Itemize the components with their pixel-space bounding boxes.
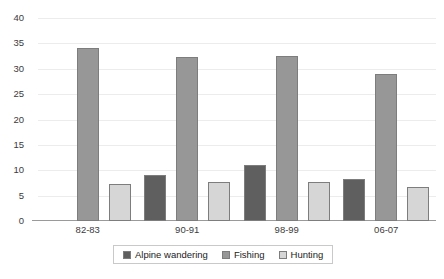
y-axis-tick-label: 30 bbox=[0, 64, 24, 74]
legend-item[interactable]: Fishing bbox=[222, 249, 265, 260]
bar-slot bbox=[109, 18, 131, 221]
bar bbox=[144, 175, 166, 221]
bar-slot bbox=[77, 18, 99, 221]
bar bbox=[176, 57, 198, 221]
bar-groups bbox=[38, 18, 436, 221]
legend-swatch-icon bbox=[222, 251, 230, 259]
bar-slot bbox=[276, 18, 298, 221]
legend-swatch-icon bbox=[279, 251, 287, 259]
bar bbox=[208, 182, 230, 221]
bar-slot bbox=[45, 18, 67, 221]
y-axis-tick-label: 20 bbox=[0, 115, 24, 125]
bar-slot bbox=[375, 18, 397, 221]
bar bbox=[276, 56, 298, 221]
y-axis-tick-label: 5 bbox=[0, 191, 24, 201]
bar-slot bbox=[407, 18, 429, 221]
y-axis-tick-label: 10 bbox=[0, 166, 24, 176]
bar-slot bbox=[176, 18, 198, 221]
bar-chart: 0510152025303540 82-8390-9198-9906-07 Al… bbox=[0, 0, 444, 279]
x-axis-tick-label: 98-99 bbox=[237, 224, 337, 235]
bar bbox=[109, 184, 131, 221]
bar-slot bbox=[343, 18, 365, 221]
legend-item[interactable]: Alpine wandering bbox=[123, 249, 208, 260]
bar bbox=[244, 165, 266, 221]
bar-slot bbox=[144, 18, 166, 221]
x-axis-tick-label: 90-91 bbox=[138, 224, 238, 235]
bar-group bbox=[237, 18, 337, 221]
bar bbox=[407, 187, 429, 222]
legend-swatch-icon bbox=[123, 251, 131, 259]
bar-slot bbox=[208, 18, 230, 221]
legend-label: Alpine wandering bbox=[135, 249, 208, 260]
bar bbox=[343, 179, 365, 221]
bar bbox=[375, 74, 397, 221]
y-axis-tick-label: 25 bbox=[0, 89, 24, 99]
bar bbox=[308, 182, 330, 221]
legend-label: Fishing bbox=[234, 249, 265, 260]
chart-legend: Alpine wanderingFishingHunting bbox=[113, 245, 333, 264]
x-axis-tick-label: 06-07 bbox=[337, 224, 437, 235]
bar bbox=[77, 48, 99, 221]
legend-label: Hunting bbox=[291, 249, 324, 260]
plot-area: 0510152025303540 bbox=[38, 18, 436, 221]
x-axis-tick-labels: 82-8390-9198-9906-07 bbox=[38, 224, 436, 235]
y-axis-tick-label: 0 bbox=[0, 216, 24, 226]
bar-group bbox=[337, 18, 437, 221]
bar-slot bbox=[308, 18, 330, 221]
y-axis-tick-label: 40 bbox=[0, 13, 24, 23]
y-axis-tick-label: 35 bbox=[0, 39, 24, 49]
x-axis-tick-label: 82-83 bbox=[38, 224, 138, 235]
legend-item[interactable]: Hunting bbox=[279, 249, 324, 260]
bar-group bbox=[138, 18, 238, 221]
y-axis-tick-label: 15 bbox=[0, 140, 24, 150]
bar-slot bbox=[244, 18, 266, 221]
bar-group bbox=[38, 18, 138, 221]
